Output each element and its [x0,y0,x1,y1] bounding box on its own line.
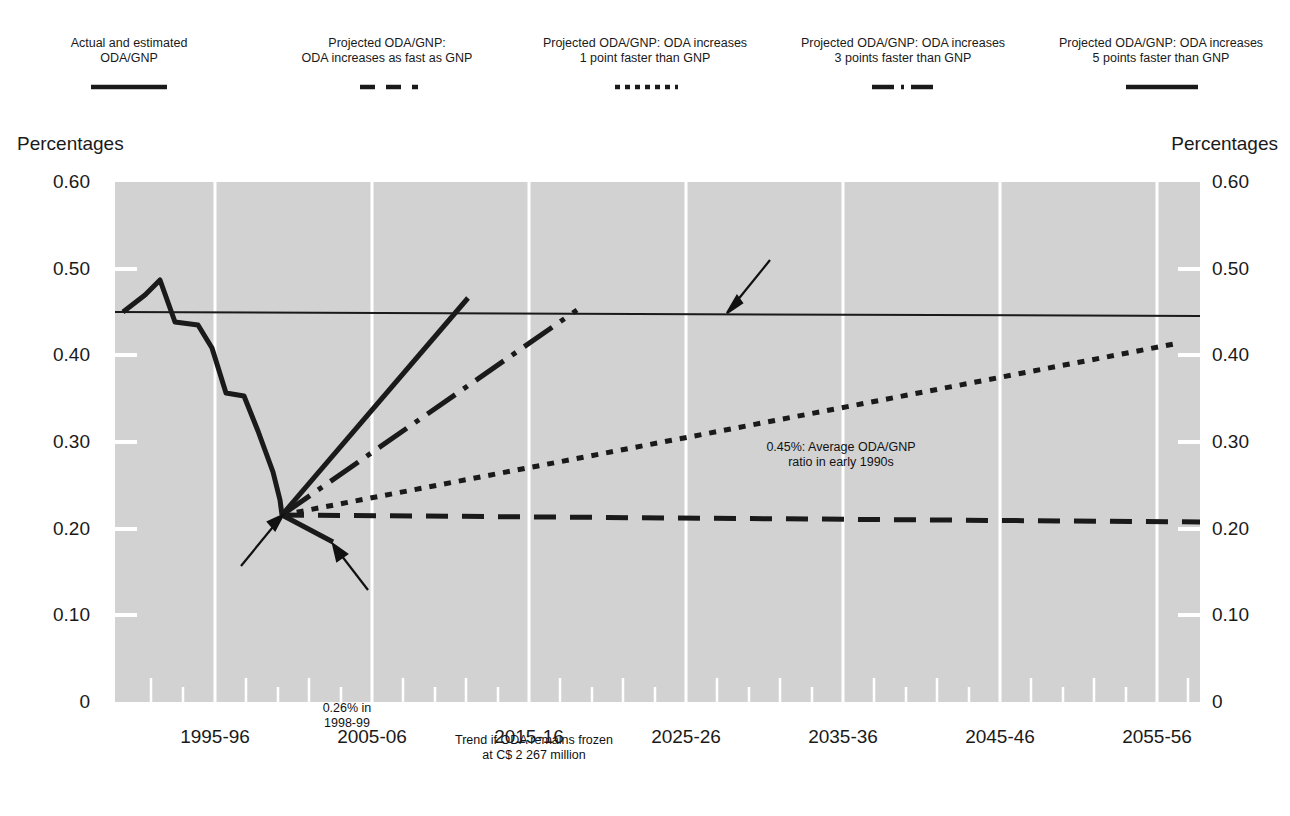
legend-label: Projected ODA/GNP: ODA increases 1 point… [543,36,747,66]
legend-swatch-dotted [590,81,700,93]
y-tick-right-3: 0.30 [1212,432,1290,451]
legend-item-1-point-faster: Projected ODA/GNP: ODA increases 1 point… [516,36,774,93]
y-tick-left-4: 0.20 [0,519,90,538]
legend-swatch-solid-thick [74,81,184,93]
chart-legend: Actual and estimated ODA/GNP Projected O… [0,36,1290,116]
y-tick-left-1: 0.50 [0,259,90,278]
x-tick-2035-36: 2035-36 [773,726,913,748]
legend-item-3-points-faster: Projected ODA/GNP: ODA increases 3 point… [774,36,1032,93]
legend-label: Projected ODA/GNP: ODA increases 3 point… [801,36,1005,66]
annotation-arrow-045 [727,260,770,313]
y-tick-right-5: 0.10 [1212,605,1290,624]
annotation-average-ratio: 0.45%: Average ODA/GNP ratio in early 19… [736,440,946,470]
annotation-arrow-026 [241,515,283,566]
series-1-point-faster [282,344,1174,515]
legend-swatch-solid-thick-2 [1106,81,1216,93]
x-tick-1995-96: 1995-96 [145,726,285,748]
legend-label: Actual and estimated ODA/GNP [71,36,188,66]
legend-item-actual-estimated: Actual and estimated ODA/GNP [0,36,258,93]
y-tick-right-4: 0.20 [1212,519,1290,538]
legend-swatch-long-dash [332,81,442,93]
x-axis-minor-ticks [151,678,1188,702]
legend-item-as-fast-as-gnp: Projected ODA/GNP: ODA increases as fast… [258,36,516,93]
x-tick-2005-06: 2005-06 [302,726,442,748]
y-tick-right-1: 0.50 [1212,259,1290,278]
x-tick-2055-56: 2055-56 [1087,726,1227,748]
y-tick-left-3: 0.30 [0,432,90,451]
series-as-fast-as-gnp [282,515,1200,522]
legend-label: Projected ODA/GNP: ODA increases as fast… [302,36,473,66]
y-tick-left-5: 0.10 [0,605,90,624]
x-tick-2045-46: 2045-46 [930,726,1070,748]
series-actual-estimated [123,280,282,515]
y-tick-left-2: 0.40 [0,345,90,364]
chart-svg [115,182,1200,702]
vertical-gridlines [215,182,1157,702]
y-tick-right-6: 0 [1212,692,1290,711]
x-tick-2015-16: 2015-16 [459,726,599,748]
x-tick-2025-26: 2025-26 [616,726,756,748]
series-reference-045 [115,312,1200,316]
legend-label: Projected ODA/GNP: ODA increases 5 point… [1059,36,1263,66]
y-axis-title-right: Percentages [1171,133,1278,155]
y-tick-right-0: 0.60 [1212,172,1290,191]
y-tick-left-0: 0.60 [0,172,90,191]
y-tick-left-6: 0 [0,692,90,711]
legend-item-5-points-faster: Projected ODA/GNP: ODA increases 5 point… [1032,36,1290,93]
chart-plot-wrapper: 0.45%: Average ODA/GNP ratio in early 19… [0,160,1290,720]
annotation-arrow-frozen [333,544,368,590]
y-axis-ticks [115,269,1200,615]
y-tick-right-2: 0.40 [1212,345,1290,364]
chart-plot-area: 0.45%: Average ODA/GNP ratio in early 19… [115,182,1200,702]
y-axis-title-left: Percentages [17,133,124,155]
series-frozen-trend [282,515,333,542]
legend-swatch-dash-dot [848,81,958,93]
